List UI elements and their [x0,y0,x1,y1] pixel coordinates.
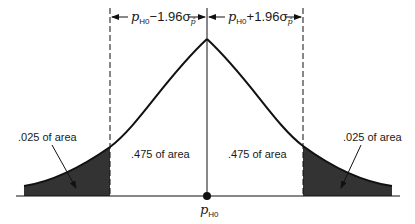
center-point [203,192,211,200]
left-tail-label: .025 of area [18,131,78,143]
normal-curve-diagram: pH0−1.96σp̂ pH0+1.96σp̂ .025 of area .47… [0,0,415,224]
right-tail-label: .025 of area [343,131,403,143]
center-axis-label: pH0 [200,202,219,219]
right-tail-shade [303,146,392,196]
bell-curve [24,39,392,186]
left-center-label: .475 of area [131,148,191,160]
left-interval-label: pH0−1.96σp̂ [131,9,196,26]
right-center-label: .475 of area [228,148,288,160]
right-interval-label: pH0+1.96σp̂ [228,9,293,26]
